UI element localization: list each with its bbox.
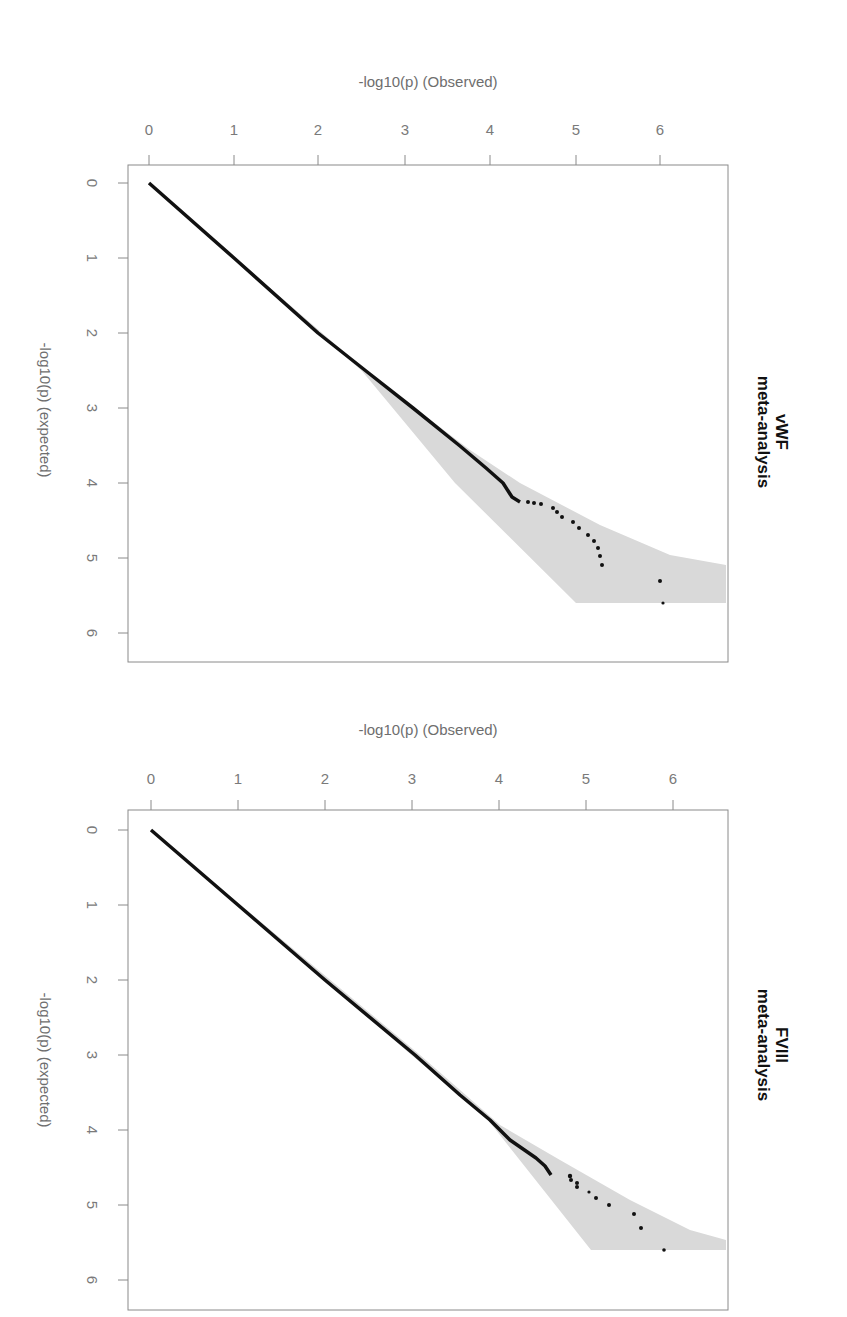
tick-label: 4 [84,1126,101,1134]
tick-label: 6 [84,629,101,637]
tick-label: 0 [147,770,155,787]
panel-subtitle: meta-analysis [754,989,773,1101]
tick-label: 1 [84,901,101,909]
tick-label: 5 [572,121,580,138]
observed-axis: 0 1 2 3 4 5 6 [145,121,664,165]
tick-label: 0 [84,826,101,834]
tick-label: 6 [669,770,677,787]
tick-label: 2 [84,329,101,337]
tick-label: 5 [84,1201,101,1209]
tick-label: 2 [321,770,329,787]
panel-title: FVIII [772,1027,791,1063]
tick-label: 0 [84,179,101,187]
panel-subtitle: meta-analysis [754,376,773,488]
expected-axis: 0 1 2 3 4 5 6 -log10(p) (expected) [37,179,128,637]
tick-label: 6 [656,121,664,138]
expected-axis: 0 1 2 3 4 5 6 -log10(p) (expected) [37,826,128,1284]
expected-axis-title: -log10(p) (expected) [37,342,54,477]
tick-label: 1 [84,254,101,262]
observed-axis-title: -log10(p) (Observed) [358,73,497,90]
tick-label: 1 [234,770,242,787]
tick-label: 4 [486,121,494,138]
tick-label: 6 [84,1276,101,1284]
tick-label: 2 [84,976,101,984]
tick-label: 3 [84,404,101,412]
observed-axis-title: -log10(p) (Observed) [358,721,497,738]
qq-line [151,830,551,1175]
tick-label: 5 [582,770,590,787]
confidence-band [149,183,726,603]
tick-label: 3 [401,121,409,138]
panel-vwf: -log10(p) (Observed) 0 1 2 3 4 5 6 [37,73,791,662]
tick-label: 4 [84,479,101,487]
qq-figure: -log10(p) (Observed) 0 1 2 3 4 5 6 [0,0,847,1317]
tick-label: 4 [495,770,503,787]
observed-axis: 0 1 2 3 4 5 6 [147,770,677,810]
tick-label: 0 [145,121,153,138]
confidence-band [151,830,726,1250]
tick-label: 1 [230,121,238,138]
tick-label: 2 [314,121,322,138]
panel-title: vWF [772,414,791,450]
panel-fviii: -log10(p) (Observed) 0 1 2 3 4 5 6 0 [37,721,791,1310]
tick-label: 5 [84,554,101,562]
tick-label: 3 [408,770,416,787]
tick-label: 3 [84,1051,101,1059]
expected-axis-title: -log10(p) (expected) [37,992,54,1127]
